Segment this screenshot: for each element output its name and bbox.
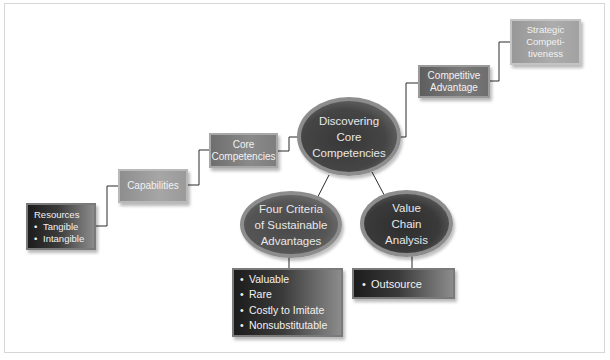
competitive-advantage-line2: Advantage	[420, 82, 488, 94]
resources-item-tangible: Tangible	[34, 221, 94, 233]
value-chain-line3: Analysis	[385, 232, 428, 248]
connector-resources-capabilities	[96, 186, 118, 226]
discovering-line3: Competencies	[312, 145, 386, 161]
discovering-line2: Core	[337, 129, 362, 145]
strategic-line1: Strategic	[512, 24, 579, 36]
resources-heading: Resources	[34, 209, 94, 221]
criteria-item-nonsubstitutable: Nonsubstitutable	[240, 318, 341, 334]
value-chain-line1: Value	[392, 200, 421, 216]
connector-discovering-advantage	[400, 83, 418, 137]
connector-core-discovering	[278, 137, 298, 151]
value-chain-item-outsource: Outsource	[362, 277, 453, 291]
strategic-line2: Competi-	[512, 36, 579, 48]
value-chain-list-box: Outsource	[352, 268, 455, 299]
value-chain-analysis-ellipse: Value Chain Analysis	[360, 190, 453, 257]
criteria-item-valuable: Valuable	[240, 272, 341, 288]
connector-capabilities-core	[188, 150, 209, 185]
core-competencies-box: Core Competencies	[209, 133, 278, 168]
criteria-item-costly-to-imitate: Costly to Imitate	[240, 303, 341, 319]
strategic-competitiveness-box: Strategic Competi- tiveness	[510, 19, 581, 65]
capabilities-label: Capabilities	[120, 180, 186, 192]
resources-item-intangible: Intangible	[34, 233, 94, 245]
competitive-advantage-line1: Competitive	[420, 70, 488, 82]
four-criteria-line3: Advantages	[261, 233, 322, 249]
discovering-line1: Discovering	[319, 113, 379, 129]
value-chain-line2: Chain	[391, 216, 421, 232]
core-competencies-line1: Core	[211, 139, 276, 151]
strategic-line3: tiveness	[512, 48, 579, 60]
criteria-item-rare: Rare	[240, 287, 341, 303]
connector-advantage-strategic	[490, 42, 510, 81]
four-criteria-line2: of Sustainable	[255, 217, 328, 233]
discovering-core-competencies-ellipse: Discovering Core Competencies	[297, 97, 401, 176]
resources-box: Resources Tangible Intangible	[26, 203, 96, 250]
four-criteria-ellipse: Four Criteria of Sustainable Advantages	[240, 191, 342, 258]
four-criteria-list-box: Valuable Rare Costly to Imitate Nonsubst…	[232, 268, 343, 337]
four-criteria-line1: Four Criteria	[259, 201, 323, 217]
capabilities-box: Capabilities	[118, 169, 188, 203]
competitive-advantage-box: Competitive Advantage	[418, 65, 490, 98]
core-competencies-line2: Competencies	[211, 151, 276, 163]
